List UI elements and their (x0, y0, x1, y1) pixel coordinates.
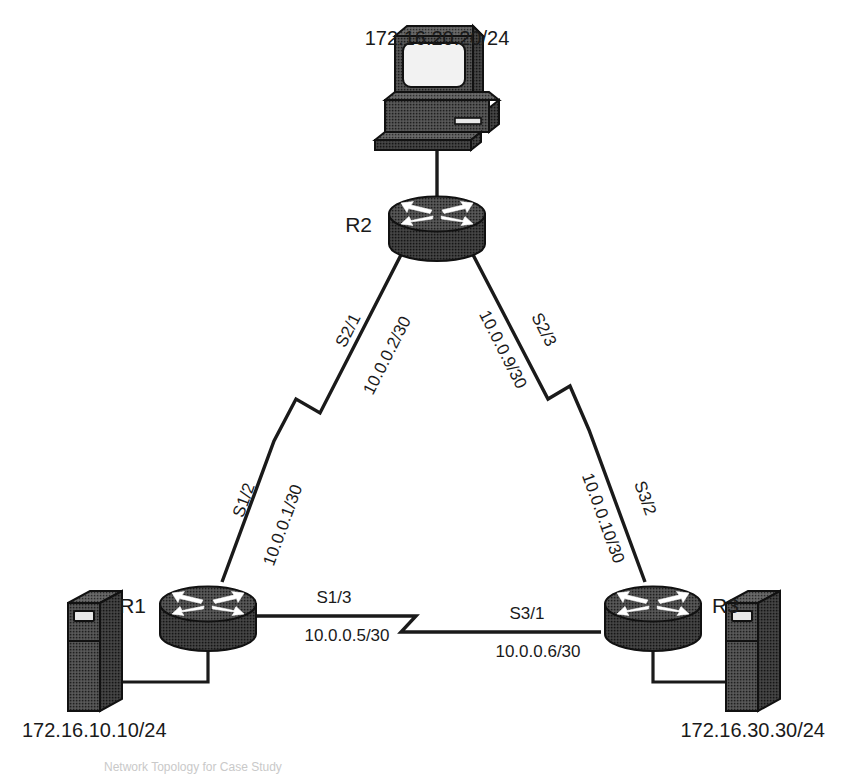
label-r1r3-address-r1: 10.0.0.5/30 (304, 626, 389, 645)
label-r1r3-interface-r1: S1/3 (317, 588, 352, 607)
device-router-r3[interactable] (605, 587, 701, 652)
device-server-1[interactable] (68, 591, 122, 711)
label-r1r3-address-r3: 10.0.0.6/30 (495, 642, 580, 661)
label-r1r2-interface-r1: S1/2 (229, 480, 259, 519)
server-tower-icon (68, 591, 122, 711)
label-router-r3: R3 (712, 594, 739, 617)
router-icon (605, 587, 701, 652)
label-r2r3-interface-r2: S2/3 (527, 310, 560, 350)
router-icon (160, 587, 256, 652)
label-r1r2-address-r2: 10.0.0.2/30 (359, 313, 415, 397)
label-workstation-address: 172.16.20.20/24 (365, 27, 510, 49)
device-router-r2[interactable] (389, 197, 485, 262)
label-r1r2-address-r1: 10.0.0.1/30 (259, 482, 306, 568)
router-icon (389, 197, 485, 262)
link-r1-r2 (222, 249, 404, 582)
topology-canvas: 172.16.20.20/24 R2 R1 R3 172.16.10.10/24… (0, 0, 847, 774)
label-r1r3-interface-r3: S3/1 (510, 604, 545, 623)
label-r1r2-interface-r2: S2/1 (332, 311, 365, 351)
label-router-r1: R1 (119, 594, 146, 617)
label-server-1-address: 172.16.10.10/24 (22, 719, 167, 741)
network-topology-diagram: 172.16.20.20/24 R2 R1 R3 172.16.10.10/24… (0, 0, 847, 774)
diagram-caption: Network Topology for Case Study (104, 760, 282, 774)
device-router-r1[interactable] (160, 587, 256, 652)
label-r2r3-interface-r3: S3/2 (630, 478, 660, 517)
label-server-3-address: 172.16.30.30/24 (680, 719, 825, 741)
label-router-r2: R2 (345, 213, 372, 236)
